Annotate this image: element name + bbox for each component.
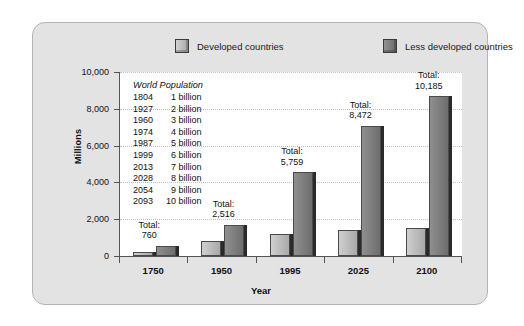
world-population-year: 1987	[133, 138, 166, 150]
total-annotation-1950: Total:2,516	[212, 199, 235, 220]
bar-less-2025	[361, 126, 381, 256]
world-population-year: 1999	[133, 150, 166, 162]
world-population-row: 19744 billion	[133, 127, 202, 139]
world-population-row: 20288 billion	[133, 173, 202, 185]
world-population-year: 1974	[133, 127, 166, 139]
bar-face	[224, 225, 244, 256]
bar-shadow	[176, 246, 179, 256]
world-population-year: 2028	[133, 173, 166, 185]
dark-gray-swatch	[383, 39, 397, 53]
x-axis-tick-label: 2025	[348, 265, 369, 276]
bar-less-1950	[224, 225, 244, 256]
y-axis-tick-mark	[114, 182, 119, 183]
bar-face	[156, 246, 176, 256]
x-axis-tick-label: 1950	[211, 265, 232, 276]
bar-less-1750	[156, 246, 176, 256]
x-axis-tick-mark	[187, 257, 188, 263]
world-population-year: 2013	[133, 162, 166, 174]
world-population-row: 209310 billion	[133, 196, 202, 208]
chart-legend: Developed countriesLess developed countr…	[33, 37, 489, 59]
total-prefix: Total:	[349, 100, 372, 111]
x-axis-tick-mark	[256, 257, 257, 263]
total-prefix: Total:	[415, 70, 443, 81]
world-population-amount: 9 billion	[166, 185, 202, 197]
total-value: 5,759	[281, 157, 304, 168]
total-prefix: Total:	[212, 199, 235, 210]
x-axis-tick-label: 2100	[416, 265, 437, 276]
world-population-amount: 3 billion	[166, 115, 202, 127]
bar-developed-2100	[406, 228, 426, 256]
bar-face	[338, 230, 358, 256]
total-annotation-1995: Total:5,759	[281, 146, 304, 167]
world-population-row: 19272 billion	[133, 104, 202, 116]
total-prefix: Total:	[138, 220, 160, 231]
world-population-amount: 5 billion	[166, 138, 202, 150]
x-axis-tick-mark	[393, 257, 394, 263]
bar-face	[270, 234, 290, 256]
x-axis-tick-label: 1995	[279, 265, 300, 276]
world-population-row: 19603 billion	[133, 115, 202, 127]
world-population-row: 19875 billion	[133, 138, 202, 150]
world-population-amount: 7 billion	[166, 162, 202, 174]
x-axis-tick-label: 1750	[143, 265, 164, 276]
total-annotation-1750: Total:760	[138, 220, 160, 241]
y-axis-title: Millions	[73, 129, 83, 164]
world-population-year: 2054	[133, 185, 166, 197]
gridline	[120, 219, 462, 220]
total-value: 10,185	[415, 81, 443, 92]
bar-face	[133, 252, 153, 256]
light-gray-swatch	[175, 39, 189, 53]
y-axis-tick-mark	[114, 72, 119, 73]
bar-face	[293, 172, 313, 256]
legend-label: Less developed countries	[405, 41, 513, 52]
world-population-amount: 4 billion	[166, 127, 202, 139]
total-annotation-2025: Total:8,472	[349, 100, 372, 121]
population-bar-chart-figure: Developed countriesLess developed countr…	[0, 0, 524, 326]
bar-developed-1750	[133, 252, 153, 256]
bar-developed-1995	[270, 234, 290, 256]
y-axis-tick-label: 4,000	[86, 177, 109, 187]
legend-item-developed: Developed countries	[175, 37, 284, 55]
bar-shadow	[449, 96, 452, 256]
world-population-year: 2093	[133, 196, 166, 208]
y-axis-tick-mark	[114, 219, 119, 220]
legend-item-less-developed: Less developed countries	[383, 37, 513, 55]
world-population-row: 20549 billion	[133, 185, 202, 197]
world-population-title: World Population	[133, 80, 203, 92]
x-axis-tick-mark	[119, 257, 120, 263]
world-population-year: 1804	[133, 92, 166, 104]
world-population-inset: World Population 18041 billion19272 bill…	[133, 80, 203, 208]
legend-label: Developed countries	[197, 41, 284, 52]
world-population-table: 18041 billion19272 billion19603 billion1…	[133, 92, 202, 208]
world-population-row: 19996 billion	[133, 150, 202, 162]
bar-face	[201, 241, 221, 256]
total-value: 8,472	[349, 110, 372, 121]
world-population-amount: 2 billion	[166, 104, 202, 116]
total-prefix: Total:	[281, 146, 304, 157]
bar-face	[406, 228, 426, 256]
y-axis-tick-mark	[114, 146, 119, 147]
total-value: 760	[138, 230, 160, 241]
world-population-amount: 8 billion	[166, 173, 202, 185]
bar-less-1995	[293, 172, 313, 256]
x-axis-tick-mark	[324, 257, 325, 263]
bar-shadow	[381, 126, 384, 256]
world-population-amount: 6 billion	[166, 150, 202, 162]
total-annotation-2100: Total:10,185	[415, 70, 443, 91]
y-axis-tick-label: 2,000	[86, 214, 109, 224]
bar-developed-1950	[201, 241, 221, 256]
bar-face	[361, 126, 381, 256]
x-axis-tick-mark	[461, 257, 462, 263]
y-axis-tick-label: 0	[104, 251, 109, 261]
y-axis-tick-label: 10,000	[81, 67, 109, 77]
world-population-amount: 10 billion	[166, 196, 202, 208]
x-axis-title: Year	[33, 285, 489, 296]
y-axis-tick-mark	[114, 109, 119, 110]
bar-face	[429, 96, 449, 256]
world-population-row: 18041 billion	[133, 92, 202, 104]
chart-panel: Developed countriesLess developed countr…	[32, 22, 488, 305]
world-population-year: 1960	[133, 115, 166, 127]
bar-shadow	[244, 225, 247, 256]
bar-shadow	[313, 172, 316, 256]
y-axis-tick-label: 8,000	[86, 104, 109, 114]
